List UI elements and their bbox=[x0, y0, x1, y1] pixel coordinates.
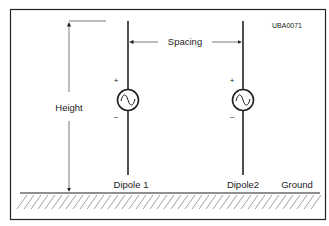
ground-label: Ground bbox=[281, 179, 313, 190]
ac-source-icon bbox=[233, 90, 254, 111]
dipole-diagram: UBA0071 Height Spacing + – Dipole 1 + – … bbox=[0, 0, 329, 226]
height-label: Height bbox=[55, 102, 83, 113]
dipole-2-plus-sign: + bbox=[230, 76, 235, 85]
dipole-2: + – Dipole2 bbox=[227, 21, 259, 190]
dipole-1-label: Dipole 1 bbox=[114, 179, 149, 190]
dipole-2-minus-sign: – bbox=[230, 112, 235, 121]
ac-source-icon bbox=[118, 90, 139, 111]
dipole-1: + – Dipole 1 bbox=[114, 21, 149, 190]
dipole-2-label: Dipole2 bbox=[227, 179, 259, 190]
figure-id: UBA0071 bbox=[272, 22, 302, 29]
dipole-1-plus-sign: + bbox=[114, 76, 119, 85]
dipole-1-minus-sign: – bbox=[114, 112, 119, 121]
spacing-label: Spacing bbox=[168, 36, 202, 47]
ground-hatch bbox=[17, 195, 321, 209]
